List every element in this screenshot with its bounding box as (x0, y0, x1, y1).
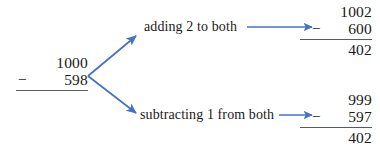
minus-sign-icon: − (18, 71, 27, 88)
result-difference: 402 (348, 129, 374, 146)
result-subtrahend-row: − 597 (298, 108, 374, 125)
result-subtrahend-row: − 600 (298, 20, 374, 37)
result-minuend-row: 999 (298, 91, 374, 108)
result-minuend: 999 (348, 91, 374, 108)
branch-arrow-up (88, 36, 136, 76)
result-block-subtracting: 999 − 597 402 (298, 91, 374, 146)
branch-label-subtracting: subtracting 1 from both (140, 107, 274, 123)
minus-sign-icon: − (312, 20, 321, 37)
result-subtrahend: 600 (348, 20, 374, 37)
result-block-adding: 1002 − 600 402 (298, 3, 374, 58)
source-problem: 1000 − 598 (14, 54, 90, 92)
result-subtrahend: 597 (348, 108, 374, 125)
source-minuend: 1000 (56, 54, 90, 71)
minus-sign-icon: − (312, 108, 321, 125)
branch-arrow-down (88, 76, 136, 113)
result-rule (300, 39, 372, 40)
source-rule (16, 90, 88, 91)
result-minuend-row: 1002 (298, 3, 374, 20)
branch-label-adding: adding 2 to both (144, 19, 237, 35)
result-difference: 402 (348, 41, 374, 58)
source-subtrahend: 598 (64, 71, 90, 88)
result-rule (300, 127, 372, 128)
result-difference-row: 402 (298, 41, 374, 58)
source-minuend-row: 1000 (14, 54, 90, 71)
subtraction-compensation-diagram: 1000 − 598 adding 2 to both 1002 − 600 4… (0, 0, 380, 149)
result-difference-row: 402 (298, 129, 374, 146)
source-subtrahend-row: − 598 (14, 71, 90, 88)
result-minuend: 1002 (340, 3, 374, 20)
